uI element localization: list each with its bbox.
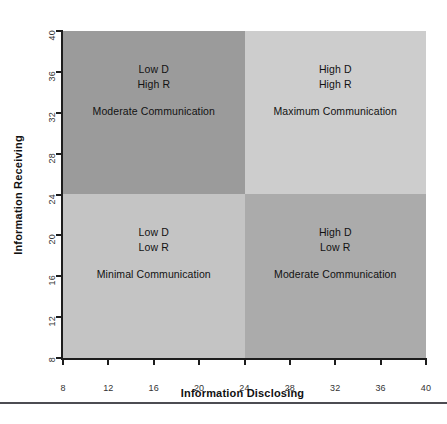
- x-tick-mark: [334, 358, 336, 365]
- x-tick-mark: [289, 358, 291, 365]
- x-tick-mark: [198, 358, 200, 365]
- quadrant-top-right-line2: High R: [319, 77, 352, 92]
- y-tick-label: 40: [47, 30, 57, 40]
- quadrant-chart-figure: Low D High R Moderate Communication High…: [0, 0, 447, 424]
- quadrant-top-right-line1: High D: [319, 62, 352, 77]
- y-tick-label: 24: [47, 194, 57, 204]
- x-tick-mark: [244, 358, 246, 365]
- y-tick-label: 12: [47, 316, 57, 326]
- y-tick-label: 36: [47, 71, 57, 81]
- quadrant-top-left-description: Moderate Communication: [93, 105, 215, 117]
- quadrant-bottom-left-line1: Low D: [139, 225, 169, 240]
- plot-area: Low D High R Moderate Communication High…: [61, 31, 426, 360]
- quadrant-bottom-right-description: Moderate Communication: [274, 268, 396, 280]
- x-tick-mark: [107, 358, 109, 365]
- quadrant-bottom-right-line1: High D: [319, 225, 352, 240]
- y-tick-label: 16: [47, 275, 57, 285]
- quadrant-top-left: Low D High R Moderate Communication: [63, 31, 245, 194]
- quadrant-bottom-right-line2: Low R: [320, 240, 350, 255]
- quadrant-bottom-left: Low D Low R Minimal Communication: [63, 194, 245, 358]
- x-tick-mark: [62, 358, 64, 365]
- quadrant-grid: Low D High R Moderate Communication High…: [63, 31, 426, 358]
- y-tick-label: 20: [47, 234, 57, 244]
- y-axis-title-wrap: Information Receiving: [10, 31, 26, 358]
- x-tick-mark: [425, 358, 427, 365]
- x-tick-mark: [153, 358, 155, 365]
- x-axis-title: Information Disclosing: [61, 387, 424, 399]
- quadrant-top-right: High D High R Maximum Communication: [245, 31, 427, 194]
- y-tick-label: 32: [47, 112, 57, 122]
- x-tick-mark: [380, 358, 382, 365]
- quadrant-bottom-left-description: Minimal Communication: [97, 268, 211, 280]
- quadrant-top-left-line1: Low D: [139, 62, 169, 77]
- quadrant-bottom-left-line2: Low R: [139, 240, 169, 255]
- y-tick-label: 28: [47, 153, 57, 163]
- quadrant-top-left-line2: High R: [137, 77, 170, 92]
- y-axis-title: Information Receiving: [12, 135, 24, 255]
- footer-divider: [0, 402, 447, 404]
- y-tick-label: 8: [47, 357, 57, 362]
- quadrant-bottom-right: High D Low R Moderate Communication: [245, 194, 427, 358]
- quadrant-top-right-description: Maximum Communication: [274, 105, 397, 117]
